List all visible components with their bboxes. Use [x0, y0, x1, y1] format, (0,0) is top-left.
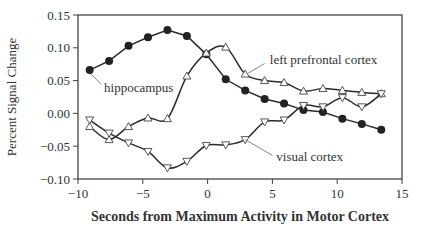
annotation-leader: [248, 64, 265, 74]
annotations: hippocampusleft prefrontal cortexvisual …: [91, 52, 378, 164]
circle-marker: [144, 33, 152, 41]
circle-marker: [261, 95, 269, 103]
down-triangle-marker: [86, 117, 94, 124]
annotation-label: left prefrontal cortex: [270, 52, 378, 67]
y-tick-label: 0.10: [47, 40, 70, 55]
down-triangle-marker: [261, 119, 269, 126]
circle-marker: [241, 86, 249, 94]
y-tick-label: −0.05: [40, 139, 70, 154]
line-chart: −10−50510150.150.100.050.00−0.05−0.10 hi…: [0, 0, 426, 234]
up-triangle-marker: [183, 72, 191, 79]
circle-marker: [377, 126, 385, 134]
circle-marker: [163, 26, 171, 34]
y-tick-label: −0.10: [40, 172, 70, 187]
x-axis-label: Seconds from Maximum Activity in Motor C…: [91, 209, 389, 224]
circle-marker: [86, 66, 94, 74]
y-tick-label: 0.15: [47, 8, 70, 23]
circle-marker: [358, 120, 366, 128]
circle-marker: [280, 100, 288, 108]
x-tick-label: 10: [331, 186, 344, 201]
circle-marker: [183, 32, 191, 40]
axes: −10−50510150.150.100.050.00−0.05−0.10: [40, 8, 409, 202]
down-triangle-marker: [183, 158, 191, 165]
x-tick-label: 0: [204, 186, 211, 201]
y-axis-label: Percent Signal Change: [4, 38, 19, 157]
circle-marker: [125, 42, 133, 50]
down-triangle-marker: [202, 143, 210, 150]
annotation-label: hippocampus: [104, 80, 173, 95]
circle-marker: [222, 75, 230, 83]
y-tick-label: 0.05: [47, 73, 70, 88]
annotation-leader: [245, 140, 272, 156]
annotation-label: visual cortex: [276, 149, 343, 164]
x-tick-label: 15: [396, 186, 409, 201]
x-tick-label: 5: [269, 186, 276, 201]
up-triangle-marker: [125, 123, 133, 130]
circle-marker: [338, 115, 346, 123]
y-tick-label: 0.00: [47, 106, 70, 121]
down-triangle-marker: [105, 130, 113, 137]
annotation-leader: [91, 74, 101, 84]
x-tick-label: −5: [136, 186, 150, 201]
x-tick-label: −10: [68, 186, 88, 201]
plot-frame: [78, 15, 402, 179]
down-triangle-marker: [358, 104, 366, 111]
circle-marker: [105, 57, 113, 65]
